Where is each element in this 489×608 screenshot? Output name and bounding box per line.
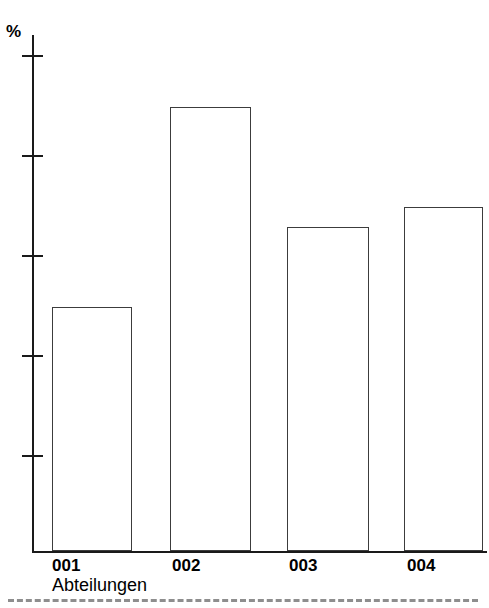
- bar-chart: % 25 20 15 10 5 001 002 003 004 Abteilun…: [0, 0, 489, 608]
- plot-area: [0, 0, 489, 608]
- x-axis-category-label-002: 002: [172, 556, 200, 576]
- bottom-dashed-rule: [8, 599, 478, 602]
- bar-002: [170, 107, 251, 551]
- bar-004: [404, 207, 483, 551]
- bar-003: [287, 227, 369, 551]
- x-axis-title: Abteilungen: [52, 575, 147, 596]
- bar-001: [52, 307, 132, 551]
- x-axis-category-label-004: 004: [407, 556, 435, 576]
- x-axis-line: [32, 551, 487, 553]
- x-axis-category-label-003: 003: [289, 556, 317, 576]
- x-axis-category-label-001: 001: [52, 556, 80, 576]
